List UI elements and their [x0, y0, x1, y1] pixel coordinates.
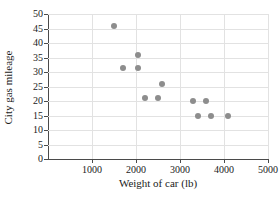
x-tick-mark [136, 159, 137, 163]
y-tick-mark [44, 14, 48, 15]
data-point [135, 52, 141, 58]
x-tick-label: 4000 [214, 165, 234, 175]
y-tick-label: 0 [38, 154, 43, 164]
gridline-horizontal [48, 116, 268, 117]
y-tick-mark [44, 87, 48, 88]
data-point [190, 98, 196, 104]
y-tick-label: 10 [33, 125, 43, 135]
x-axis-label: Weight of car (lb) [48, 178, 268, 189]
x-tick-label: 2000 [126, 165, 146, 175]
gridline-vertical [224, 14, 225, 160]
gridline-horizontal [48, 43, 268, 44]
gridline-vertical [136, 14, 137, 160]
y-tick-mark [44, 159, 48, 160]
y-tick-label: 5 [38, 140, 43, 150]
data-point [135, 65, 141, 71]
x-tick-mark [268, 159, 269, 163]
gridline-horizontal [48, 130, 268, 131]
y-tick-mark [44, 29, 48, 30]
data-point [142, 95, 148, 101]
y-tick-label: 35 [33, 53, 43, 63]
y-tick-label: 20 [33, 96, 43, 106]
gridline-horizontal [48, 72, 268, 73]
x-tick-mark [180, 159, 181, 163]
data-point [225, 113, 231, 119]
y-tick-mark [44, 145, 48, 146]
x-tick-label: 5000 [258, 165, 278, 175]
data-point [195, 113, 201, 119]
data-point [120, 65, 126, 71]
gridline-horizontal [48, 145, 268, 146]
y-tick-mark [44, 72, 48, 73]
y-tick-label: 25 [33, 82, 43, 92]
gridline-horizontal [48, 87, 268, 88]
x-tick-label: 1000 [82, 165, 102, 175]
y-tick-label: 30 [33, 67, 43, 77]
y-tick-label: 50 [33, 9, 43, 19]
y-tick-mark [44, 130, 48, 131]
y-tick-mark [44, 116, 48, 117]
gridline-horizontal [48, 29, 268, 30]
x-tick-label: 3000 [170, 165, 190, 175]
gridline-horizontal [48, 14, 268, 15]
gridline-horizontal [48, 101, 268, 102]
data-point [203, 98, 209, 104]
x-tick-mark [224, 159, 225, 163]
data-point [208, 113, 214, 119]
y-axis-label-text: City gas mileage [4, 50, 15, 124]
y-tick-label: 15 [33, 111, 43, 121]
scatter-plot-figure: City gas mileage 05101520253035404550 10… [0, 0, 280, 204]
gridline-vertical [268, 14, 269, 160]
data-point [111, 23, 117, 29]
gridline-vertical [92, 14, 93, 160]
y-tick-label: 45 [33, 24, 43, 34]
y-tick-mark [44, 43, 48, 44]
gridline-vertical [180, 14, 181, 160]
y-axis-label: City gas mileage [2, 14, 16, 160]
x-axis-line [48, 159, 268, 160]
y-tick-label: 40 [33, 38, 43, 48]
x-tick-mark [92, 159, 93, 163]
y-tick-mark [44, 58, 48, 59]
plot-area: 05101520253035404550 1000200030004000500… [48, 14, 268, 160]
y-tick-mark [44, 101, 48, 102]
gridline-horizontal [48, 58, 268, 59]
